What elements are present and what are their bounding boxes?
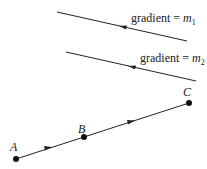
- line-gradient-m2: gradient = m2: [66, 51, 205, 81]
- point-c: [186, 100, 192, 106]
- point-a: [13, 156, 19, 162]
- arrowhead-left-icon: [119, 26, 127, 30]
- gradient-label-m2: gradient = m2: [140, 51, 205, 67]
- label-b: B: [78, 122, 86, 136]
- diagram-canvas: gradient = m1 gradient = m2 A B C: [0, 0, 207, 169]
- arrowhead-left-icon: [128, 66, 136, 70]
- gradient-label-m1: gradient = m1: [131, 11, 196, 27]
- line-gradient-m1: gradient = m1: [57, 11, 196, 41]
- label-a: A: [9, 140, 18, 154]
- label-c: C: [183, 85, 192, 99]
- path-abc: [16, 103, 189, 159]
- arrowhead-right-icon: [127, 120, 135, 125]
